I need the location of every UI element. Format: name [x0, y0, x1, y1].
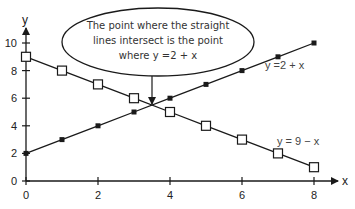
- data-point-filled-square: [240, 68, 245, 73]
- y-tick-label: 6: [11, 92, 17, 104]
- data-point-filled-square: [24, 151, 29, 156]
- data-point-open-square: [166, 108, 175, 117]
- x-tick-label: 8: [311, 189, 317, 201]
- callout-annotation: The point where the straight lines inter…: [62, 8, 254, 104]
- data-point-filled-square: [312, 41, 317, 46]
- data-point-open-square: [58, 66, 67, 75]
- y-tick-label: 4: [11, 120, 17, 132]
- x-tick-label: 6: [239, 189, 245, 201]
- x-tick-label: 2: [95, 189, 101, 201]
- data-point-open-square: [202, 121, 211, 130]
- data-point-filled-square: [204, 82, 209, 87]
- x-tick-label: 0: [23, 189, 29, 201]
- data-point-open-square: [238, 135, 247, 144]
- x-axis-label: x: [342, 174, 348, 188]
- data-point-filled-square: [96, 123, 101, 128]
- y-axis-label: y: [22, 13, 28, 27]
- y-tick-label: 2: [11, 147, 17, 159]
- line-chart: 0246810 02468 y x y =2 + x y = 9 − x The…: [0, 0, 355, 209]
- callout-line-3: where y =2 + x: [119, 50, 197, 61]
- data-point-filled-square: [60, 137, 65, 142]
- series-label-y-2-plus-x: y =2 + x: [265, 59, 305, 71]
- y-tick-label: 0: [11, 175, 17, 187]
- data-point-open-square: [274, 149, 283, 158]
- y-tick-label: 8: [11, 65, 17, 77]
- data-point-open-square: [130, 94, 139, 103]
- series-label-y-9-minus-x: y = 9 − x: [277, 135, 320, 147]
- data-point-open-square: [310, 163, 319, 172]
- data-point-filled-square: [132, 110, 137, 115]
- y-tick-label: 10: [5, 37, 17, 49]
- x-tick-label: 4: [167, 189, 173, 201]
- data-point-open-square: [94, 80, 103, 89]
- callout-line-1: The point where the straight: [86, 20, 230, 31]
- data-point-filled-square: [168, 96, 173, 101]
- data-point-open-square: [22, 52, 31, 61]
- callout-line-2: lines intersect is the point: [93, 35, 223, 46]
